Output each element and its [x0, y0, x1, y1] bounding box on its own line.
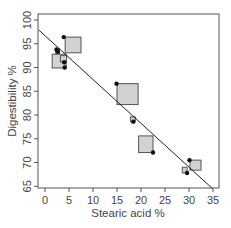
predicted-square — [117, 84, 138, 105]
x-tick-label: 5 — [66, 194, 72, 206]
x-axis-label: Stearic acid % — [91, 207, 165, 219]
x-tick-label: 35 — [207, 194, 219, 206]
y-tick-label: 100 — [21, 11, 33, 29]
data-point — [62, 65, 66, 69]
x-tick-label: 10 — [87, 194, 99, 206]
x-tick-label: 30 — [183, 194, 195, 206]
y-tick-label: 75 — [21, 133, 33, 145]
x-tick-label: 25 — [159, 194, 171, 206]
y-axis-label: Digestibility % — [6, 65, 18, 137]
x-tick-label: 20 — [135, 194, 147, 206]
data-point — [151, 150, 155, 154]
data-point — [114, 81, 118, 85]
predicted-square — [139, 136, 153, 153]
predicted-square — [190, 160, 201, 170]
predicted-square — [65, 37, 81, 53]
x-tick-label: 15 — [111, 194, 123, 206]
y-axis-ticks: 65707580859095100 — [21, 11, 38, 193]
data-point — [131, 119, 135, 123]
data-point — [62, 60, 66, 64]
x-tick-label: 0 — [42, 194, 48, 206]
y-tick-label: 80 — [21, 109, 33, 121]
data-point — [185, 171, 189, 175]
y-tick-label: 85 — [21, 85, 33, 97]
data-point — [62, 35, 66, 39]
data-point — [187, 158, 191, 162]
data-point — [54, 47, 58, 51]
x-axis-ticks: 05101520253035 — [42, 188, 219, 206]
y-tick-label: 95 — [21, 38, 33, 50]
scatter-chart: 05101520253035 65707580859095100 Stearic… — [0, 0, 231, 228]
predicted-squares — [52, 37, 201, 173]
y-tick-label: 70 — [21, 156, 33, 168]
y-tick-label: 65 — [21, 180, 33, 192]
regression-line — [39, 30, 213, 189]
y-tick-label: 90 — [21, 61, 33, 73]
